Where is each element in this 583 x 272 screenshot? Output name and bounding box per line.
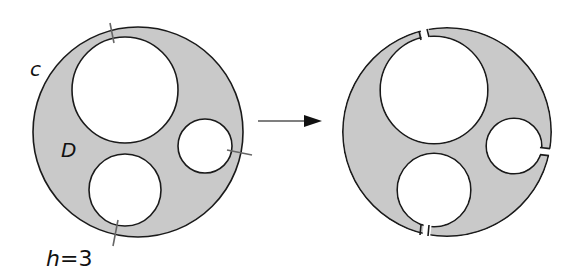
h-label: h=3: [46, 246, 92, 271]
cut-region-fill: [290, 0, 583, 272]
curve-label-c: c: [30, 57, 41, 81]
h-value: =3: [60, 246, 92, 271]
right-hole: [178, 119, 232, 173]
diagram-canvas: c D h=3: [0, 0, 583, 272]
h-variable: h: [46, 246, 60, 271]
region-label-d: D: [61, 138, 76, 162]
bottom-hole: [89, 154, 161, 226]
right-region-cut: [290, 0, 583, 272]
left-region: [0, 0, 290, 272]
large-hole: [72, 37, 178, 143]
